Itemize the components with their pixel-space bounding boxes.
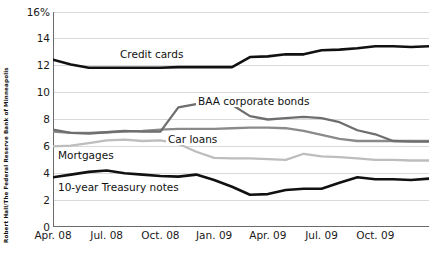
y-axis-tick-label: 6 [43, 141, 50, 152]
x-axis-tick-label: Jul. 08 [77, 230, 137, 241]
series-label-baa: BAA corporate bonds [196, 96, 311, 107]
x-axis-labels: Apr. 08Jul. 08Oct. 08Jan. 09Apr. 09Jul. … [0, 230, 435, 250]
series-label-treasury: 10-year Treasury notes [56, 182, 181, 193]
series-label-credit-cards: Credit cards [118, 49, 185, 60]
series-line-baa-corporate-bonds [53, 103, 429, 141]
x-axis-tick-label: Apr. 08 [23, 230, 83, 241]
interest-rate-line-chart: Robert Hall/The Federal Reserve Bank of … [0, 0, 435, 257]
plot-svg [53, 12, 429, 227]
y-axis-tick-label: 2 [43, 195, 50, 206]
x-axis-tick-label: Jan. 09 [184, 230, 244, 241]
series-label-mortgages: Mortgages [56, 150, 116, 161]
plot-area [53, 12, 429, 227]
y-axis-tick-label: 16% [27, 7, 50, 18]
y-axis-tick-label: 14 [37, 33, 50, 44]
y-axis-labels: 16%14121086420 [0, 0, 50, 257]
series-line-credit-cards [53, 46, 429, 68]
y-axis-tick-label: 4 [43, 168, 50, 179]
y-axis-tick-label: 12 [37, 60, 50, 71]
y-axis-tick-label: 8 [43, 114, 50, 125]
x-axis-tick-label: Apr. 09 [238, 230, 298, 241]
x-axis-tick-label: Jul. 09 [292, 230, 352, 241]
y-axis-tick-label: 10 [37, 87, 50, 98]
x-axis-tick-label: Oct. 08 [130, 230, 190, 241]
series-label-car-loans: Car loans [166, 134, 219, 145]
x-axis-tick-label: Oct. 09 [345, 230, 405, 241]
